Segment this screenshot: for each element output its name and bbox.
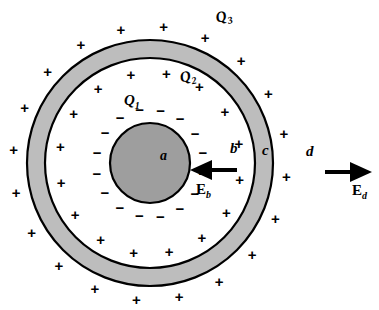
positive-charge-sign-inner: + <box>96 231 105 248</box>
positive-charge-sign-inner: + <box>162 65 171 82</box>
label-radius-b: b <box>230 140 238 157</box>
field-arrow-d <box>325 162 372 182</box>
positive-charge-sign-outer: + <box>237 52 246 69</box>
positive-charge-sign-outer: + <box>132 291 141 308</box>
negative-charge-sign: − <box>116 109 125 126</box>
figure-canvas: −−−−−−−−−−−−−−−−++++++++++++++++++++++++… <box>0 0 379 310</box>
positive-charge-sign-outer: + <box>9 141 18 158</box>
positive-charge-sign-outer: + <box>215 273 224 290</box>
diagram-svg: −−−−−−−−−−−−−−−−++++++++++++++++++++++++… <box>0 0 379 310</box>
negative-charge-sign: − <box>93 165 102 182</box>
positive-charge-sign-inner: + <box>71 206 80 223</box>
negative-charge-sign: − <box>176 110 185 127</box>
negative-charge-sign: − <box>115 199 124 216</box>
negative-charge-sign: − <box>93 144 102 161</box>
negative-charge-sign: − <box>101 184 110 201</box>
positive-charge-sign-outer: + <box>201 29 210 46</box>
positive-charge-sign-outer: + <box>43 63 52 80</box>
positive-charge-sign-inner: + <box>222 204 231 221</box>
negative-charge-sign: − <box>101 124 110 141</box>
label-Q1: Q1 <box>124 92 140 111</box>
positive-charge-sign-outer: + <box>77 36 86 53</box>
positive-charge-sign-inner: + <box>57 174 66 191</box>
negative-charge-sign: − <box>175 200 184 217</box>
negative-charge-sign: − <box>156 102 165 119</box>
positive-charge-sign-outer: + <box>54 257 63 274</box>
inner-charged-sphere <box>110 123 190 203</box>
negative-charge-sign: − <box>191 125 200 142</box>
positive-charge-sign-outer: + <box>282 168 291 185</box>
positive-charge-sign-inner: + <box>126 66 135 83</box>
positive-charge-sign-outer: + <box>271 210 280 227</box>
field-arrow-b <box>190 160 237 180</box>
positive-charge-sign-outer: + <box>20 99 29 116</box>
negative-charge-sign: − <box>199 144 208 161</box>
positive-charge-sign-outer: + <box>12 184 21 201</box>
label-field-Eb: Eb <box>196 181 211 200</box>
positive-charge-sign-outer: + <box>27 224 36 241</box>
positive-charge-sign-outer: + <box>248 246 257 263</box>
positive-charge-sign-outer: + <box>159 18 168 35</box>
positive-charge-sign-outer: + <box>90 280 99 297</box>
positive-charge-sign-inner: + <box>94 80 103 97</box>
positive-charge-sign-inner: + <box>235 171 244 188</box>
positive-charge-sign-inner: + <box>69 105 78 122</box>
positive-charge-sign-inner: + <box>197 229 206 246</box>
positive-charge-sign-outer: + <box>264 85 273 102</box>
negative-charge-sign: − <box>135 207 144 224</box>
label-radius-a: a <box>160 148 167 164</box>
positive-charge-sign-outer: + <box>117 21 126 38</box>
label-field-Ed: Ed <box>352 182 367 201</box>
negative-charge-sign: − <box>156 208 165 225</box>
positive-charge-sign-inner: + <box>165 243 174 260</box>
positive-charge-sign-outer: + <box>279 125 288 142</box>
label-radius-d: d <box>306 143 314 160</box>
positive-charge-sign-inner: + <box>129 244 138 261</box>
label-radius-c: c <box>262 142 269 159</box>
positive-charge-sign-outer: + <box>175 288 184 305</box>
positive-charge-sign-inner: + <box>220 103 229 120</box>
positive-charge-sign-inner: + <box>56 138 65 155</box>
